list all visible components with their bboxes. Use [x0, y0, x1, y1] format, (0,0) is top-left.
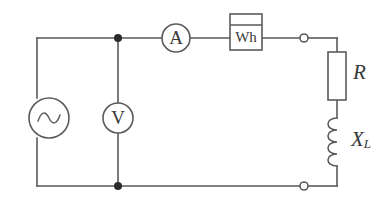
- resistor-box: [328, 52, 346, 100]
- inductor-coil: [328, 118, 337, 166]
- circuit-schematic-canvas: V A Wh R XL: [0, 0, 381, 201]
- junction-top-dot: [114, 34, 122, 42]
- ac-voltage-source: [29, 98, 69, 138]
- wire-network: [37, 38, 337, 186]
- junction-bottom-dot: [114, 182, 122, 190]
- inductor-label-subscript: L: [363, 136, 371, 151]
- ammeter-label: A: [169, 27, 183, 48]
- circuit-diagram: V A Wh R XL: [0, 0, 381, 201]
- resistor-label: R: [352, 60, 366, 84]
- terminal-bottom-right-icon: [300, 182, 308, 190]
- inductor: XL: [328, 118, 371, 166]
- resistor: R: [328, 52, 366, 100]
- terminal-group: [300, 34, 308, 190]
- voltmeter-label: V: [111, 107, 125, 128]
- voltmeter: V: [103, 103, 133, 133]
- inductor-label-main: X: [350, 127, 365, 151]
- watthour-meter-label: Wh: [235, 29, 257, 45]
- ammeter: A: [162, 24, 190, 52]
- terminal-top-right-icon: [300, 34, 308, 42]
- inductor-label: XL: [350, 127, 371, 151]
- watt-hour-meter: Wh: [230, 14, 262, 50]
